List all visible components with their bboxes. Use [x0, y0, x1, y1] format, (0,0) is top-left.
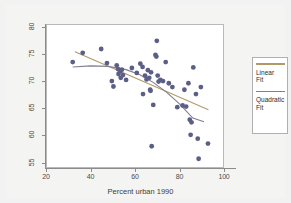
data-point — [140, 65, 145, 70]
data-point — [186, 81, 191, 86]
y-tick-label: 65 — [28, 101, 35, 115]
data-point — [111, 84, 116, 89]
x-tick — [135, 169, 136, 172]
data-point — [121, 73, 126, 78]
y-tick — [42, 108, 45, 109]
y-tick — [42, 163, 45, 164]
y-tick-label: 75 — [28, 46, 35, 60]
data-point — [134, 71, 139, 76]
plot-svg — [6, 5, 285, 198]
legend-label-linear: Linear Fit — [256, 69, 284, 84]
data-point — [189, 120, 194, 125]
y-axis-line — [45, 24, 46, 169]
data-point — [129, 66, 134, 71]
graph-canvas: 556065707580 20406080100 Percent urban 1… — [6, 5, 285, 198]
data-point — [175, 105, 180, 110]
y-tick — [42, 54, 45, 55]
data-point — [198, 85, 203, 90]
data-point — [195, 136, 200, 141]
data-point — [99, 47, 104, 52]
data-point — [154, 54, 159, 59]
x-tick — [224, 169, 225, 172]
y-tick-label: 70 — [28, 74, 35, 88]
x-tick — [180, 169, 181, 172]
data-point — [206, 141, 211, 146]
x-tick-label: 20 — [37, 173, 55, 180]
data-point — [155, 73, 160, 78]
x-axis-title: Percent urban 1990 — [45, 187, 236, 196]
data-point — [141, 92, 146, 97]
scatter-points-group — [70, 38, 210, 161]
data-point — [194, 92, 199, 97]
legend-label-quadratic-line2: Fit — [256, 104, 284, 112]
legend-key-linear — [256, 63, 285, 65]
y-tick — [42, 135, 45, 136]
data-point — [119, 67, 124, 72]
y-tick-label: 60 — [28, 128, 35, 142]
data-point — [151, 103, 156, 108]
data-point — [163, 60, 168, 65]
data-point — [124, 78, 129, 83]
data-point — [80, 50, 85, 55]
x-axis-line — [45, 168, 236, 169]
data-point — [147, 75, 152, 80]
legend-key-quadratic — [256, 91, 285, 93]
legend: Linear Fit Quadratic Fit — [252, 57, 288, 134]
data-point — [184, 104, 189, 109]
x-tick-label: 40 — [82, 173, 100, 180]
x-tick-label: 60 — [126, 173, 144, 180]
data-point — [196, 156, 201, 161]
chart-screenshot: 556065707580 20406080100 Percent urban 1… — [0, 0, 291, 203]
data-point — [166, 81, 171, 86]
x-tick-label: 100 — [215, 173, 233, 180]
fit-line-linear — [75, 52, 209, 110]
data-point — [148, 88, 153, 93]
x-tick-label: 80 — [171, 173, 189, 180]
y-tick — [42, 27, 45, 28]
data-point — [154, 38, 159, 43]
y-tick-label: 80 — [28, 19, 35, 33]
legend-label-linear-line1: Linear — [256, 69, 284, 77]
legend-label-linear-line2: Fit — [256, 76, 284, 84]
data-point — [149, 70, 154, 75]
y-tick — [42, 81, 45, 82]
data-point — [149, 144, 154, 149]
data-point — [188, 132, 193, 137]
y-tick-label: 55 — [28, 155, 35, 169]
data-point — [70, 60, 75, 65]
legend-label-quadratic: Quadratic Fit — [256, 96, 284, 111]
x-tick — [91, 169, 92, 172]
data-point — [182, 87, 187, 92]
x-tick — [46, 169, 47, 172]
legend-label-quadratic-line1: Quadratic — [256, 96, 284, 104]
data-point — [170, 85, 175, 90]
data-point — [105, 61, 110, 66]
data-point — [109, 79, 114, 84]
data-point — [161, 79, 166, 84]
data-point — [191, 65, 196, 70]
